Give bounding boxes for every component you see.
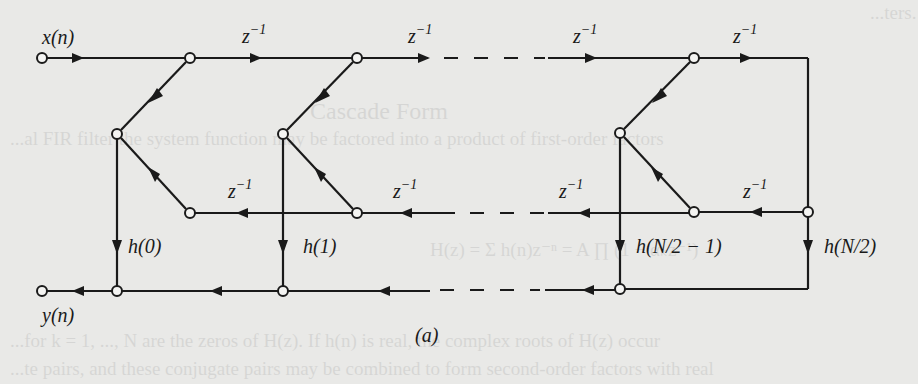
arrow-right-icon [585, 53, 597, 63]
delay-label-lower-3: z−1 [558, 177, 583, 202]
delay-label-top-1: z−1 [241, 22, 266, 47]
top-node-1 [185, 53, 195, 63]
arrow-up-left-icon [314, 167, 326, 182]
arrow-left-icon [400, 208, 412, 218]
arrow-left-icon [378, 286, 390, 296]
delay-label-top-2: z−1 [407, 22, 432, 47]
center-tap-node [803, 207, 813, 217]
output-label: y(n) [40, 304, 75, 327]
lower-delay-line [195, 207, 803, 218]
forward-diagonals [121, 62, 690, 130]
arrow-left-icon [750, 207, 762, 217]
coefficient-hN2: h(N/2) [824, 235, 877, 258]
arrow-down-left-icon [148, 88, 163, 103]
top-delay-line [47, 53, 808, 207]
delay-label-top-4: z−1 [732, 22, 757, 47]
arrow-left-icon [582, 285, 594, 295]
out-node-0 [112, 286, 122, 296]
arrow-down-icon [615, 240, 625, 254]
top-node-2 [352, 53, 362, 63]
out-node-1 [278, 286, 288, 296]
coefficient-h0: h(0) [128, 235, 162, 258]
input-node [37, 53, 47, 63]
delay-label-lower-1: z−1 [227, 177, 252, 202]
delay-label-lower-2: z−1 [392, 177, 417, 202]
arrow-down-left-icon [652, 88, 667, 103]
arrow-left-icon [72, 286, 84, 296]
arrow-right-icon [418, 53, 430, 63]
delay-label-lower-4: z−1 [742, 177, 767, 202]
arrow-down-icon [803, 240, 813, 254]
top-node-3 [689, 53, 699, 63]
arrow-right-icon [72, 53, 84, 63]
coefficient-hN2m1: h(N/2 − 1) [636, 235, 722, 258]
delay-label-top-3: z−1 [572, 22, 597, 47]
signal-flow-graph: x(n) y(n) z−1 z−1 z−1 z−1 z−1 z−1 z−1 z−… [0, 0, 918, 384]
labels: x(n) y(n) z−1 z−1 z−1 z−1 z−1 z−1 z−1 z−… [40, 22, 877, 347]
sum-node-0 [112, 129, 122, 139]
coefficient-h1: h(1) [303, 235, 337, 258]
arrow-right-icon [250, 53, 262, 63]
lower-node-2 [352, 208, 362, 218]
arrow-down-left-icon [315, 88, 330, 103]
arrow-down-icon [278, 240, 288, 254]
out-node-2 [615, 284, 625, 294]
arrow-left-icon [236, 208, 248, 218]
arrow-left-icon [210, 286, 222, 296]
arrow-up-left-icon [651, 167, 663, 182]
input-label: x(n) [41, 26, 75, 49]
reverse-diagonals [121, 137, 690, 209]
sum-node-1 [278, 129, 288, 139]
lower-node-3 [689, 207, 699, 217]
figure-caption: (a) [415, 324, 439, 347]
arrow-right-icon [740, 53, 752, 63]
output-node [37, 286, 47, 296]
arrow-left-icon [578, 208, 590, 218]
arrow-down-icon [112, 240, 122, 254]
lower-node-1 [185, 208, 195, 218]
output-summation-line [47, 285, 808, 296]
sum-node-2 [615, 128, 625, 138]
